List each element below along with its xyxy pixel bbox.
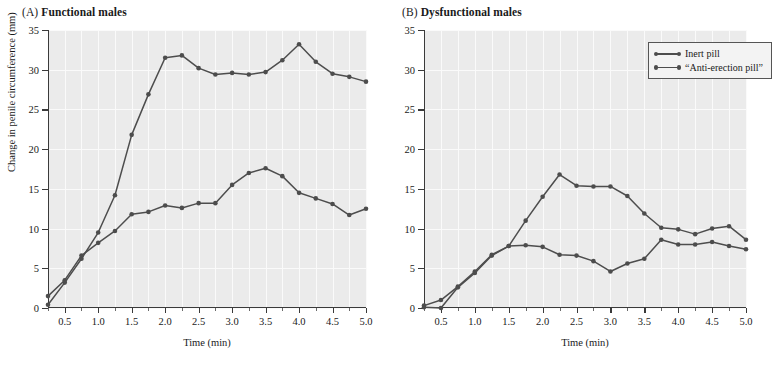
data-point [280,58,285,63]
plot-area-a: 051015202530350.51.01.52.02.53.03.54.04.… [48,30,366,308]
data-point [129,212,134,217]
x-axis-tick-label: 4.5 [706,316,719,327]
series-inert-pill [422,172,749,310]
series-line [424,175,746,308]
data-point [473,269,478,274]
x-axis-tick-minor [695,308,696,311]
series-line [48,168,366,296]
x-axis-tick [232,308,233,313]
data-point [263,166,268,171]
data-point [129,133,134,138]
data-point [439,306,444,311]
x-axis-tick [199,308,200,313]
data-point [330,71,335,76]
chart-legend: Inert pill “Anti-erection pill” [648,42,772,79]
data-point [196,66,201,71]
legend-item-inert-pill: Inert pill [654,47,763,61]
x-axis-tick-minor [81,308,82,311]
y-axis-tick-label: 30 [405,64,416,75]
data-point [113,193,118,198]
x-axis-tick [366,308,367,313]
panel-dysfunctional-males: (B)Dysfunctional males 051015202530350.5… [380,0,760,365]
plot-area-b: 051015202530350.51.01.52.02.53.03.54.04.… [424,30,746,308]
data-point [230,71,235,76]
data-point [557,172,562,177]
data-point [523,218,528,223]
x-axis-tick [65,308,66,313]
data-point [744,237,749,242]
x-axis-tick-minor [593,308,594,311]
x-axis-tick-label: 0.5 [434,316,447,327]
data-point [347,213,352,218]
data-point [280,174,285,179]
x-axis-tick-label: 3.5 [638,316,651,327]
x-axis-tick-label: 2.0 [536,316,549,327]
legend-label-1: “Anti-erection pill” [685,61,763,75]
data-point [710,240,715,245]
data-point [96,241,101,246]
legend-item-anti-erection-pill: “Anti-erection pill” [654,61,763,75]
x-axis-tick [132,308,133,313]
y-axis-tick-label: 25 [405,104,416,115]
data-point [506,244,511,249]
x-axis-tick-minor [661,308,662,311]
data-point [347,75,352,80]
data-point [727,224,732,229]
x-axis-tick-label: 5.0 [739,316,752,327]
x-axis-tick [577,308,578,313]
data-point [523,243,528,248]
y-axis-tick-label: 10 [29,223,40,234]
y-axis-tick-label: 5 [34,263,39,274]
x-axis-tick-minor [115,308,116,311]
data-point [113,229,118,234]
x-axis-tick-minor [182,308,183,311]
data-point [608,184,613,189]
x-axis-tick-label: 3.5 [259,316,272,327]
y-axis-tick-label: 35 [405,25,416,36]
data-point [693,232,698,237]
y-axis-tick-label: 0 [34,303,39,314]
data-point [642,256,647,261]
x-axis-tick-minor [48,308,49,311]
x-axis-label-a: Time (min) [48,337,366,348]
data-point [230,183,235,188]
data-point [422,303,427,308]
y-axis-tick-label: 0 [410,303,415,314]
data-point [625,261,630,266]
series-anti-erection-pill [422,237,749,308]
x-axis-tick [299,308,300,313]
x-axis-tick-minor [526,308,527,311]
data-point [247,72,252,77]
x-axis-tick-minor [458,308,459,311]
data-point [574,183,579,188]
x-axis-tick-label: 3.0 [226,316,239,327]
data-point [213,72,218,77]
x-axis-tick-minor [729,308,730,311]
data-point [489,252,494,257]
data-point [591,259,596,264]
series-line [424,240,746,306]
data-point [146,92,151,97]
data-point [146,210,151,215]
data-point [263,70,268,75]
y-axis-tick-label: 35 [29,25,40,36]
x-axis-tick-label: 2.5 [570,316,583,327]
x-axis-tick-label: 4.0 [672,316,685,327]
y-axis-tick-label: 30 [29,64,40,75]
data-point [608,269,613,274]
data-point [744,247,749,252]
y-axis-tick-label: 15 [29,183,40,194]
x-axis-tick-minor [148,308,149,311]
y-axis-tick-label: 5 [410,263,415,274]
data-point [676,227,681,232]
data-point [591,184,596,189]
series-anti-erection-pill [46,166,369,298]
panel-b-title: (B)Dysfunctional males [402,6,522,18]
panel-functional-males: (A)Functional males Change in penile cir… [0,0,380,365]
x-axis-tick-label: 4.0 [292,316,305,327]
x-axis-tick-label: 1.0 [468,316,481,327]
x-axis-tick-minor [560,308,561,311]
y-axis-tick-label: 10 [405,223,416,234]
x-axis-tick-minor [249,308,250,311]
data-point [574,253,579,258]
